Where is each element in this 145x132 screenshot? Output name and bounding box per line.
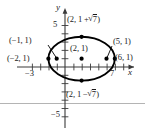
label-top-covertex: (2, 1 +7) bbox=[67, 14, 100, 24]
label-top-covertex-radicand: 7 bbox=[93, 14, 98, 24]
x-tick-label-minus3: −3 bbox=[25, 69, 34, 78]
label-right-focus: (5, 1) bbox=[113, 37, 131, 46]
y-axis-label: y bbox=[56, 3, 60, 12]
label-center: (2, 1) bbox=[70, 44, 88, 53]
label-top-covertex-prefix: (2, 1 + bbox=[67, 14, 89, 24]
x-axis bbox=[17, 65, 134, 70]
sqrt-icon-bottom: 7 bbox=[88, 89, 97, 99]
plotted-points bbox=[46, 35, 117, 83]
point-bottom-covertex bbox=[80, 79, 84, 83]
label-bottom-covertex-radicand: 7 bbox=[92, 89, 97, 99]
point-right-focus bbox=[104, 57, 108, 61]
x-axis-label: x bbox=[128, 68, 132, 77]
x-tick-label-7: 7 bbox=[110, 69, 114, 78]
point-top-covertex bbox=[80, 35, 84, 39]
y-axis bbox=[63, 8, 68, 128]
label-left-vertex: (−2, 1) bbox=[7, 54, 30, 63]
y-tick-label-5: 5 bbox=[53, 20, 57, 29]
label-bottom-covertex-prefix: (2, 1 − bbox=[66, 89, 88, 99]
point-center bbox=[80, 57, 84, 61]
ellipse-figure: y x 5 −5 −3 7 (2, 1 +7) (2, 1 −7) (2, 1)… bbox=[0, 0, 145, 132]
label-bottom-covertex-suffix: ) bbox=[96, 89, 99, 99]
label-top-covertex-suffix: ) bbox=[97, 14, 100, 24]
label-bottom-covertex: (2, 1 −7) bbox=[66, 89, 99, 99]
point-left-focus bbox=[55, 57, 59, 61]
y-tick-label-minus5: −5 bbox=[51, 110, 60, 119]
label-left-focus: (−1, 1) bbox=[9, 36, 32, 45]
sqrt-icon-top: 7 bbox=[89, 14, 98, 24]
point-left-vertex bbox=[46, 57, 50, 61]
label-right-vertex: (6, 1) bbox=[115, 53, 133, 62]
